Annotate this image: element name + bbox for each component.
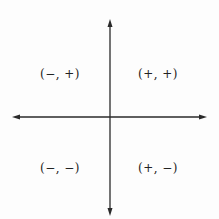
- quadrant-4-label: (+, −): [138, 161, 178, 175]
- coordinate-plane: (−, +) (+, +) (−, −) (+, −): [0, 0, 219, 219]
- axes: [0, 0, 219, 219]
- x-axis-left-arrow-icon: [12, 115, 20, 120]
- quadrant-3-label: (−, −): [40, 161, 80, 175]
- y-axis-up-arrow-icon: [108, 19, 113, 27]
- x-axis-right-arrow-icon: [199, 115, 207, 120]
- quadrant-2-label: (−, +): [40, 67, 80, 81]
- quadrant-1-label: (+, +): [138, 67, 178, 81]
- y-axis-down-arrow-icon: [108, 208, 113, 216]
